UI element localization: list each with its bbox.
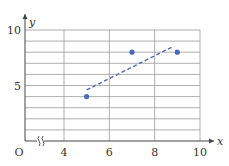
x-tick-label: 8	[151, 146, 158, 159]
data-point	[175, 50, 180, 55]
x-axis-arrow	[209, 139, 214, 144]
x-tick-label: 4	[61, 146, 68, 159]
y-axis-label: y	[28, 16, 36, 29]
x-tick-label: 6	[106, 146, 113, 159]
scatter-chart: 46810510Oxy	[0, 0, 229, 166]
y-tick-label: 5	[14, 80, 21, 93]
data-point	[84, 94, 89, 99]
origin-label: O	[14, 146, 23, 159]
y-axis-arrow	[23, 14, 28, 19]
x-tick-label: 10	[193, 146, 207, 159]
axes	[23, 14, 215, 146]
data-point	[129, 50, 134, 55]
y-tick-label: 10	[7, 24, 21, 37]
grid	[25, 30, 200, 141]
x-axis-label: x	[217, 135, 224, 148]
